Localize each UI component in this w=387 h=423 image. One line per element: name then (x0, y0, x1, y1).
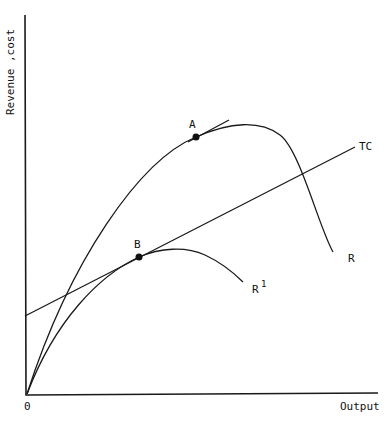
revenue-cost-diagram: Revenue ,cost Output 0 A B R TC R 1 (0, 0, 387, 423)
origin-label: 0 (24, 400, 31, 413)
point-a-marker (193, 134, 200, 141)
x-axis-label: Output (340, 400, 380, 413)
point-a-label: A (189, 118, 196, 131)
r1-curve (27, 249, 243, 394)
r1-curve-label: R (252, 283, 259, 296)
r-curve-label: R (348, 252, 355, 265)
tc-line-label: TC (359, 140, 372, 153)
r-curve (27, 125, 333, 394)
tc-line (25, 147, 355, 316)
point-b-marker (136, 254, 143, 261)
axes (25, 15, 378, 395)
r1-superscript: 1 (261, 279, 266, 289)
y-axis-label: Revenue ,cost (4, 29, 17, 115)
point-b-label: B (134, 238, 141, 251)
